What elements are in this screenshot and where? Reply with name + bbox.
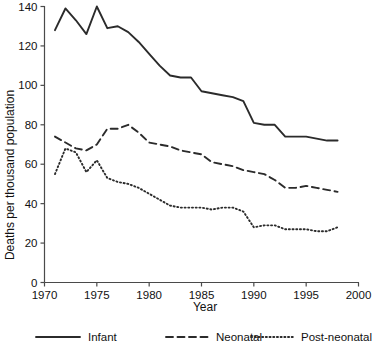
x-tick-label: 2000 bbox=[346, 289, 372, 301]
chart-legend: InfantNeonatalPost-neonatal bbox=[36, 331, 372, 343]
x-tick-label: 1975 bbox=[84, 289, 110, 301]
y-tick-label: 0 bbox=[31, 277, 37, 289]
x-tick-label: 1980 bbox=[136, 289, 162, 301]
line-chart: 020406080100120140 197019751980198519901… bbox=[0, 0, 375, 349]
y-tick-label: 60 bbox=[25, 158, 38, 170]
x-tick-label: 1995 bbox=[293, 289, 319, 301]
x-axis: 1970197519801985199019952000 bbox=[32, 283, 372, 301]
y-tick-label: 40 bbox=[25, 198, 38, 210]
y-tick-label: 140 bbox=[18, 1, 37, 13]
chart-canvas: 020406080100120140 197019751980198519901… bbox=[0, 0, 375, 349]
x-tick-label: 1985 bbox=[189, 289, 215, 301]
series-line-infant bbox=[55, 7, 338, 141]
x-tick-label: 1970 bbox=[32, 289, 58, 301]
y-axis-title: Deaths per thousand population bbox=[3, 90, 17, 260]
x-tick-label: 1990 bbox=[241, 289, 267, 301]
series-line-neonatal bbox=[55, 125, 338, 192]
x-axis-title: Year bbox=[193, 300, 217, 314]
y-tick-label: 20 bbox=[25, 237, 38, 249]
y-tick-label: 100 bbox=[18, 79, 37, 91]
legend-label-post-neonatal: Post-neonatal bbox=[301, 331, 372, 343]
y-tick-label: 120 bbox=[18, 40, 37, 52]
data-series-group bbox=[55, 7, 338, 232]
legend-label-infant: Infant bbox=[88, 331, 118, 343]
y-tick-label: 80 bbox=[25, 119, 38, 131]
y-axis: 020406080100120140 bbox=[18, 1, 44, 289]
series-line-post-neonatal bbox=[55, 148, 338, 231]
